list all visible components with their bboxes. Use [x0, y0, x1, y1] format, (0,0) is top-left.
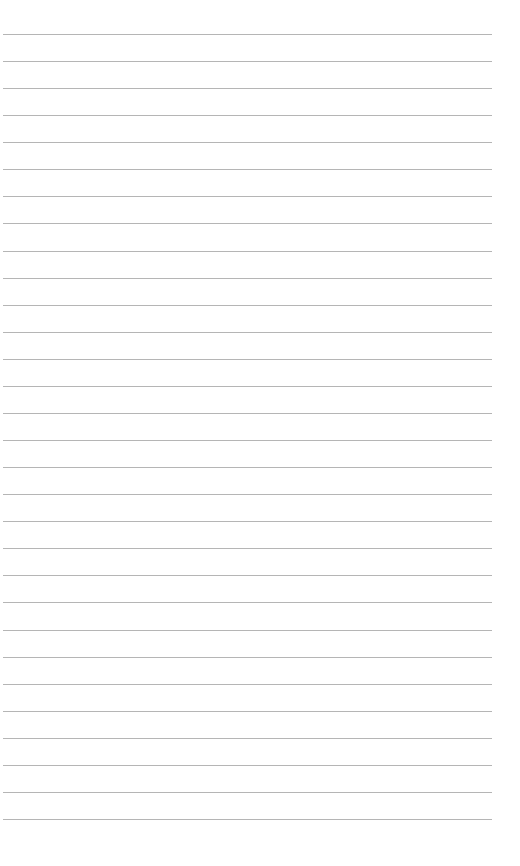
ruled-line [3, 251, 492, 252]
ruled-line [3, 765, 492, 766]
ruled-line [3, 630, 492, 631]
ruled-line [3, 223, 492, 224]
ruled-line [3, 467, 492, 468]
ruled-line [3, 602, 492, 603]
ruled-line [3, 684, 492, 685]
ruled-line [3, 792, 492, 793]
ruled-line [3, 196, 492, 197]
ruled-line [3, 88, 492, 89]
ruled-line [3, 657, 492, 658]
lined-paper-page [0, 0, 520, 866]
ruled-line [3, 575, 492, 576]
ruled-line [3, 61, 492, 62]
ruled-line [3, 440, 492, 441]
ruled-line [3, 332, 492, 333]
ruled-line [3, 142, 492, 143]
ruled-line [3, 278, 492, 279]
ruled-line [3, 413, 492, 414]
ruled-line [3, 548, 492, 549]
ruled-line [3, 386, 492, 387]
ruled-line [3, 738, 492, 739]
ruled-line [3, 169, 492, 170]
ruled-line [3, 115, 492, 116]
ruled-line [3, 34, 492, 35]
ruled-line [3, 359, 492, 360]
ruled-line [3, 305, 492, 306]
ruled-line [3, 819, 492, 820]
ruled-line [3, 521, 492, 522]
ruled-line [3, 494, 492, 495]
ruled-line [3, 711, 492, 712]
